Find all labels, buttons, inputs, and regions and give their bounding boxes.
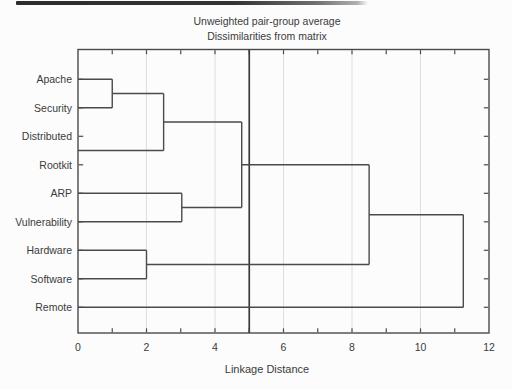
dendrogram-figure: Unweighted pair-group average Dissimilar…	[0, 0, 512, 389]
plot-area	[0, 0, 512, 389]
x-axis-label: Linkage Distance	[225, 363, 309, 375]
